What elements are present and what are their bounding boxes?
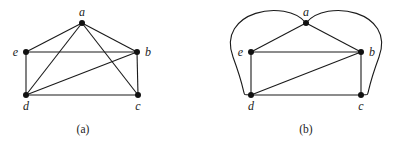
figure-a: abcde xyxy=(13,5,151,113)
edge-b-d xyxy=(251,52,361,95)
edge-a-b xyxy=(306,23,361,52)
node-c xyxy=(358,92,364,98)
node-e xyxy=(23,49,29,55)
node-d xyxy=(23,92,29,98)
node-a xyxy=(303,20,309,26)
node-b xyxy=(358,49,364,55)
edge-b-c xyxy=(137,52,138,95)
node-d xyxy=(248,92,254,98)
node-b xyxy=(134,49,140,55)
node-label-e: e xyxy=(13,45,19,59)
graph-diagram: abcde abcde (a) (b) xyxy=(0,0,396,146)
node-label-d: d xyxy=(248,99,255,113)
node-label-a: a xyxy=(79,5,85,19)
node-label-c: c xyxy=(135,99,141,113)
edge-a-e xyxy=(251,23,306,52)
node-label-b: b xyxy=(369,45,375,59)
node-e xyxy=(248,49,254,55)
node-label-b: b xyxy=(145,45,151,59)
caption-b: (b) xyxy=(299,123,313,136)
node-label-a: a xyxy=(303,5,309,19)
node-label-d: d xyxy=(23,99,30,113)
caption-a: (a) xyxy=(77,123,90,136)
node-c xyxy=(135,92,141,98)
node-label-c: c xyxy=(358,99,364,113)
edge-a-c xyxy=(82,23,138,95)
node-label-e: e xyxy=(238,45,244,59)
node-a xyxy=(79,20,85,26)
edge-a-b xyxy=(82,23,137,52)
figure-b: abcde xyxy=(230,5,381,113)
edge-a-e xyxy=(26,23,82,52)
